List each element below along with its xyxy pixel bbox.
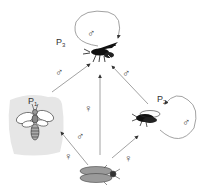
p2-fly-icon — [132, 111, 160, 128]
male-symbol-p1-to-p3: ♂ — [55, 66, 63, 78]
male-symbol-p3-loop: ♂ — [87, 27, 95, 39]
label-p2: P2 — [157, 94, 167, 105]
male-symbol-p2-to-p3: ♂ — [122, 67, 130, 79]
female-symbol-host-to-p1: ♀ — [64, 150, 72, 162]
p3-wasp-icon — [83, 42, 118, 62]
diagram-canvas: P3 P1 P2 ♂ ♂ ♂ ♂ ♂ ♀ ♀ ♀ — [0, 0, 207, 192]
label-p3: P3 — [56, 37, 66, 48]
male-symbol-host-p1: ♂ — [76, 130, 84, 142]
female-symbol-host-to-p3: ♀ — [84, 102, 92, 114]
male-symbol-p2-loop: ♂ — [182, 116, 190, 128]
arrows — [52, 11, 196, 165]
loop-p3 — [75, 11, 120, 46]
host-moth-icon — [80, 165, 120, 185]
female-symbol-host-to-p2: ♀ — [124, 152, 132, 164]
